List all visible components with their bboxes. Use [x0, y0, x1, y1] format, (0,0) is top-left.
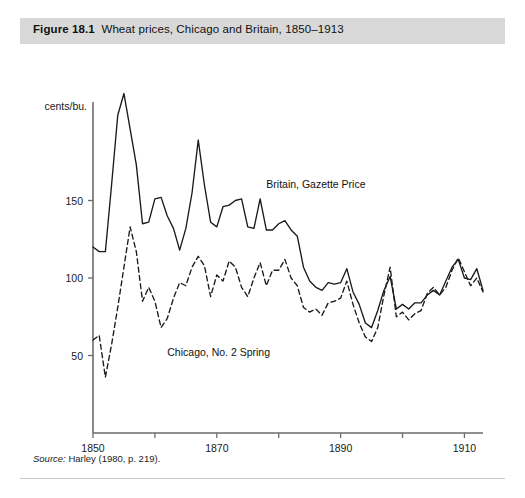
figure-number: Figure 18.1	[33, 23, 95, 35]
figure-bottom-rule	[20, 478, 505, 479]
figure-caption-text: Wheat prices, Chicago and Britain, 1850–…	[101, 23, 343, 35]
britain-series-annotation: Britain, Gazette Price	[266, 178, 365, 190]
figure-container: Figure 18.1 Wheat prices, Chicago and Br…	[0, 18, 525, 478]
x-axis-ticks: 1850187018901910	[81, 433, 476, 452]
wheat-prices-line-chart: 50100150 1850187018901910 cents/bu. Brit…	[0, 44, 525, 452]
y-axis-tick-label: 100	[65, 272, 83, 284]
source-label: Source:	[33, 453, 66, 464]
x-axis-tick-label: 1890	[329, 442, 353, 452]
figure-caption: Figure 18.1 Wheat prices, Chicago and Br…	[33, 23, 344, 35]
chicago-no2-spring-line	[93, 227, 483, 377]
y-axis-ticks: 50100150	[65, 195, 93, 362]
y-axis-tick-label: 50	[71, 350, 83, 362]
source-citation: Harley (1980, p. 219).	[68, 453, 160, 464]
y-axis-tick-label: 150	[65, 195, 83, 207]
x-axis-tick-label: 1870	[205, 442, 229, 452]
figure-source-note: Source: Harley (1980, p. 219).	[33, 453, 160, 464]
chart-plot-area: 50100150 1850187018901910 cents/bu. Brit…	[0, 44, 525, 452]
x-axis-tick-label: 1910	[453, 442, 477, 452]
chicago-series-annotation: Chicago, No. 2 Spring	[167, 346, 270, 358]
y-axis-label: cents/bu.	[44, 100, 87, 112]
x-axis-tick-label: 1850	[81, 442, 105, 452]
